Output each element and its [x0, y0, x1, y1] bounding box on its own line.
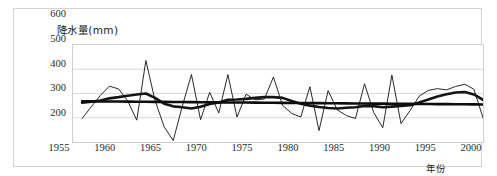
x-tick-label: 1985: [312, 142, 356, 153]
x-tick-label: 1995: [403, 142, 447, 153]
x-tick-label: 1955: [37, 142, 81, 153]
plot-area: [72, 44, 484, 143]
chart-frame: 降水量(mm) 600500400300200 1955196019651970…: [13, 8, 482, 167]
x-axis-title: 年份: [426, 161, 446, 175]
plot-svg: [73, 45, 483, 142]
x-tick-label: 1975: [220, 142, 264, 153]
x-axis-title-text: 年份: [426, 163, 446, 174]
x-tick-label: 2000: [449, 142, 493, 153]
x-tick-label: 1965: [129, 142, 173, 153]
x-tick-label: 1970: [174, 142, 218, 153]
x-tick-label: 1960: [83, 142, 127, 153]
x-tick-label: 1980: [266, 142, 310, 153]
x-tick-label: 1990: [357, 142, 401, 153]
series-line-2: [82, 92, 483, 108]
series-layer: [82, 61, 483, 141]
precipitation-chart: 降水量(mm) 600500400300200 1955196019651970…: [0, 0, 497, 176]
